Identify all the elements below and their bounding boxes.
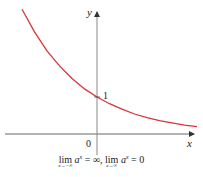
y-axis-label: y [87,6,92,18]
limit-value: = 0 [129,154,145,165]
limit-value: = ∞, [82,154,105,165]
origin-label: 0 [86,138,91,149]
exponential-curve [22,9,197,126]
limit-neg-inf: limx→−∞ [59,154,72,165]
lim-subscript: x→−∞ [58,163,72,168]
limit-caption: limx→−∞ ax = ∞, limx→∞ ax = 0 [0,154,203,165]
x-axis-label: x [187,137,192,149]
limit-pos-inf: limx→∞ [105,154,118,165]
plot-area [0,0,203,177]
lim-subscript: x→∞ [106,163,117,168]
y-intercept-label: 1 [103,90,108,101]
